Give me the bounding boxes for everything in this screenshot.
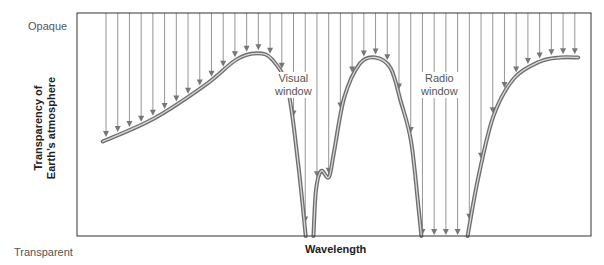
radiation-arrow: [208, 13, 214, 77]
radiation-arrow: [337, 13, 343, 108]
y-axis-title: Transparency of Earth’s atmosphere: [32, 77, 58, 179]
arrowhead-icon: [361, 50, 367, 56]
curve-long-wavelength-absorption: [468, 57, 579, 236]
radiation-arrow: [150, 13, 156, 116]
visual-window-line2: window: [275, 85, 312, 98]
radiation-arrow: [162, 13, 168, 109]
radiation-arrow: [537, 13, 543, 59]
curve-visual-to-infrared-absorption: [313, 57, 421, 236]
radiation-arrow: [572, 13, 578, 54]
ytick-opaque: Opaque: [28, 20, 67, 32]
arrowhead-icon: [373, 49, 379, 55]
radiation-arrow: [314, 13, 320, 177]
arrowhead-icon: [455, 229, 461, 235]
arrowhead-icon: [197, 79, 203, 85]
arrowhead-icon: [103, 131, 109, 137]
curve-highlight: [313, 57, 421, 236]
radiation-arrow: [478, 13, 484, 159]
radiation-arrow: [455, 13, 461, 235]
arrowhead-icon: [267, 48, 273, 54]
radiation-arrow: [115, 13, 121, 132]
radiation-arrow: [185, 13, 191, 94]
radiation-arrow: [138, 13, 144, 122]
arrowhead-icon: [431, 229, 437, 235]
radiation-arrow: [220, 13, 226, 67]
radiation-arrow: [443, 13, 449, 235]
atmospheric-transparency-chart: [0, 0, 604, 265]
radiation-arrow: [419, 13, 425, 235]
radiation-arrow: [525, 13, 531, 64]
arrowhead-icon: [513, 66, 519, 72]
arrowhead-icon: [162, 103, 168, 109]
radiation-arrow: [373, 13, 379, 55]
arrowhead-icon: [150, 110, 156, 116]
radiation-arrow: [103, 13, 109, 137]
radiation-arrow: [197, 13, 203, 85]
y-axis-title-line2: Earth’s atmosphere: [45, 77, 58, 179]
arrowhead-icon: [115, 126, 121, 132]
x-axis-title: Wavelength: [305, 243, 366, 255]
ytick-transparent: Transparent: [14, 246, 73, 258]
radiation-arrow: [466, 13, 472, 220]
arrowhead-icon: [525, 58, 531, 64]
radiation-arrow: [361, 13, 367, 56]
plot-frame: [77, 13, 591, 236]
radio-window-label: Radio window: [420, 72, 459, 98]
radiation-arrow: [126, 13, 132, 127]
radiation-arrow: [560, 13, 566, 54]
arrowhead-icon: [126, 121, 132, 127]
radiation-arrow: [396, 13, 402, 90]
radiation-arrow: [326, 13, 332, 174]
arrowhead-icon: [560, 48, 566, 54]
y-axis-title-line1: Transparency of: [32, 77, 45, 179]
arrowhead-icon: [138, 116, 144, 122]
radiation-arrow: [408, 13, 414, 133]
visual-window-line1: Visual: [275, 72, 312, 85]
radiation-arrow: [173, 13, 179, 102]
radiation-arrow: [501, 13, 507, 88]
arrowhead-icon: [255, 44, 261, 50]
arrowhead-icon: [173, 96, 179, 102]
radiation-arrow: [431, 13, 437, 235]
radiation-arrow: [255, 13, 261, 50]
radio-window-line2: window: [421, 85, 458, 98]
radiation-arrow: [279, 13, 285, 69]
arrowhead-icon: [572, 48, 578, 54]
radiation-arrow: [232, 13, 238, 57]
arrowhead-icon: [244, 46, 250, 52]
arrowhead-icon: [548, 49, 554, 55]
radiation-arrow: [490, 13, 496, 113]
radiation-arrow: [513, 13, 519, 72]
radiation-arrow: [548, 13, 554, 55]
radio-window-line1: Radio: [421, 72, 458, 85]
radiation-arrow: [349, 13, 355, 72]
arrowhead-icon: [443, 229, 449, 235]
arrowhead-icon: [185, 88, 191, 94]
visual-window-label: Visual window: [274, 72, 313, 98]
arrowhead-icon: [537, 53, 543, 59]
arrowhead-icon: [232, 51, 238, 57]
radiation-arrow: [384, 13, 390, 60]
radiation-arrow: [244, 13, 250, 52]
radiation-arrow: [267, 13, 273, 54]
